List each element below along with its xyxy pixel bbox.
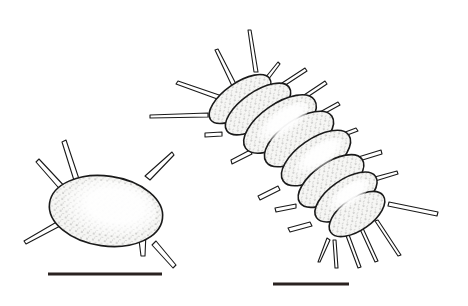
specimen-left: [24, 140, 176, 268]
specimen-right: [150, 30, 438, 268]
illustration: [0, 0, 468, 306]
